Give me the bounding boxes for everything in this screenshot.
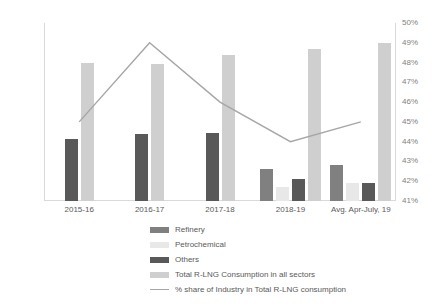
legend-label: Petrochemical — [175, 240, 226, 249]
bar-group — [326, 23, 396, 201]
chart-legend: Refinery Petrochemical Others Total R-LN… — [0, 222, 445, 297]
bar[interactable] — [346, 183, 359, 201]
bar[interactable] — [308, 49, 321, 201]
legend-item-others[interactable]: Others — [0, 252, 445, 267]
legend-label: Refinery — [175, 225, 205, 234]
bar-group — [44, 23, 114, 201]
right-axis-tick: 50% — [402, 19, 444, 27]
legend-label: Others — [175, 255, 199, 264]
legend-item-total-consumption[interactable]: Total R-LNG Consumption in all sectors — [0, 267, 445, 282]
right-axis-tick: 49% — [402, 39, 444, 47]
bar[interactable] — [378, 43, 391, 201]
legend-swatch-icon — [150, 257, 169, 263]
bar[interactable] — [151, 64, 164, 201]
legend-label: % share of Industry in Total R-LNG consu… — [175, 285, 346, 294]
bar[interactable] — [65, 139, 78, 201]
legend-label: Total R-LNG Consumption in all sectors — [175, 270, 315, 279]
legend-item-petrochemical[interactable]: Petrochemical — [0, 237, 445, 252]
bar-group — [255, 23, 325, 201]
right-axis-tick: 46% — [402, 98, 444, 106]
bar-group-bars — [185, 23, 255, 201]
chart-container: 90 80 70 60 50 40 30 20 10 0 50% 49% 48%… — [0, 0, 445, 307]
category-label: 2016-17 — [114, 205, 184, 215]
legend-swatch-icon — [150, 272, 169, 278]
bar-group — [114, 23, 184, 201]
legend-swatch-icon — [150, 242, 169, 248]
legend-line-icon — [150, 289, 169, 290]
right-axis-tick: 42% — [402, 177, 444, 185]
right-axis-tick: 43% — [402, 157, 444, 165]
category-label: 2018-19 — [255, 205, 325, 215]
bar-group — [185, 23, 255, 201]
right-axis-tick: 48% — [402, 59, 444, 67]
bar[interactable] — [81, 63, 94, 201]
bar[interactable] — [276, 187, 289, 201]
right-axis-tick: 47% — [402, 78, 444, 86]
bar[interactable] — [260, 169, 273, 201]
bar[interactable] — [362, 183, 375, 201]
bar[interactable] — [292, 179, 305, 201]
bar[interactable] — [330, 165, 343, 201]
bar-group-bars — [326, 23, 396, 201]
bar[interactable] — [206, 133, 219, 201]
category-label: 2017-18 — [185, 205, 255, 215]
bar[interactable] — [222, 55, 235, 201]
category-label: Avg. Apr-July, 19 — [326, 205, 396, 215]
legend-item-refinery[interactable]: Refinery — [0, 222, 445, 237]
bar[interactable] — [135, 134, 148, 201]
right-axis-tick: 45% — [402, 118, 444, 126]
right-axis-tick: 41% — [402, 197, 444, 205]
category-label: 2015-16 — [44, 205, 114, 215]
bar-group-bars — [255, 23, 325, 201]
bar-groups — [44, 23, 396, 201]
right-axis-tick: 44% — [402, 138, 444, 146]
legend-swatch-icon — [150, 227, 169, 233]
legend-item-percent-share[interactable]: % share of Industry in Total R-LNG consu… — [0, 282, 445, 297]
category-axis-labels: 2015-16 2016-17 2017-18 2018-19 Avg. Apr… — [44, 205, 396, 215]
bar-group-bars — [44, 23, 114, 201]
bar-group-bars — [114, 23, 184, 201]
